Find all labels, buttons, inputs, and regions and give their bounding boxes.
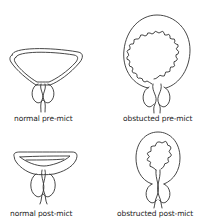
label-obstructed-post-mict: obstructed post-mict (117, 209, 193, 218)
normal-post-mict-bladder (14, 152, 77, 204)
label-obstructed-pre-mict: obstucted pre-mict (123, 114, 192, 123)
bladder-diagram-drawing (0, 0, 209, 224)
label-normal-pre-mict: normal pre-mict (14, 114, 73, 123)
obstructed-post-mict-bladder (136, 132, 180, 208)
obstructed-pre-mict-bladder (124, 15, 190, 113)
label-normal-post-mict: normal post-mict (10, 209, 72, 218)
normal-pre-mict-bladder (10, 49, 82, 112)
bladder-diagram-figure: normal pre-mict obstucted pre-mict norma… (0, 0, 209, 224)
